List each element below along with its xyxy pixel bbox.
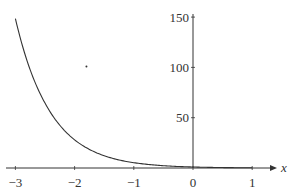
x-tick-label: −2 [68, 175, 82, 190]
x-tick-label: 1 [249, 175, 256, 190]
curve-line [15, 19, 252, 168]
y-tick-label: 150 [170, 10, 190, 25]
annotations [85, 65, 87, 67]
x-tick-label: −1 [127, 175, 141, 190]
x-axis-label: x [280, 160, 287, 175]
exponential-decay-chart: x −3−2−10150100150 [0, 0, 291, 192]
series [15, 19, 252, 168]
x-tick-label: −3 [8, 175, 22, 190]
stray-dot [85, 65, 87, 67]
x-tick-label: 0 [190, 175, 197, 190]
axes: x [6, 14, 287, 175]
y-tick-label: 50 [176, 110, 189, 125]
x-axis-arrow-icon [270, 165, 277, 171]
y-tick-label: 100 [170, 60, 190, 75]
